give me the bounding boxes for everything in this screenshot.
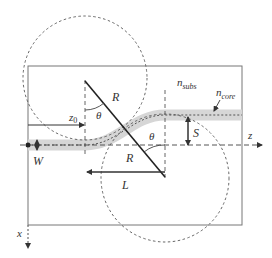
label-S: S — [193, 126, 199, 140]
ncore-pointer — [214, 100, 220, 111]
label-n-core: ncore — [216, 86, 236, 101]
radius-diagonal — [85, 81, 165, 177]
label-R-bottom: R — [125, 151, 134, 165]
label-n-subs: nsubs — [177, 76, 197, 91]
upper-bend-circle — [23, 16, 147, 140]
label-theta-right: θ — [149, 130, 155, 142]
label-W: W — [33, 154, 44, 168]
label-L: L — [121, 178, 129, 192]
label-R-top: R — [111, 90, 120, 104]
label-z0: z0 — [68, 111, 77, 125]
label-theta-top: θ — [96, 109, 102, 121]
origin-dot — [26, 143, 31, 148]
s-bend-diagram: R θ z0 nsubs ncore θ S z W R L x — [0, 0, 272, 258]
label-x-axis: x — [16, 227, 22, 239]
label-z-axis: z — [247, 129, 253, 141]
theta-arc-right — [144, 145, 165, 152]
